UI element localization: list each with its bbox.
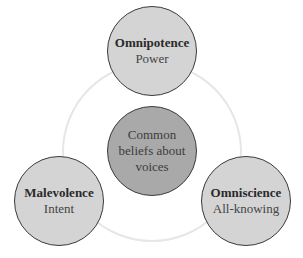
node-title: Omnipotence <box>115 35 189 51</box>
node-title: Malevolence <box>24 185 93 201</box>
node-subtitle: Intent <box>44 201 74 217</box>
node-title: Omniscience <box>211 185 282 201</box>
node-omnipotence: Omnipotence Power <box>107 6 197 96</box>
node-subtitle: All-knowing <box>213 201 279 217</box>
center-line-2: beliefs about <box>113 143 192 159</box>
center-line-1: Common <box>122 127 182 143</box>
center-line-3: voices <box>129 159 174 175</box>
node-subtitle: Power <box>135 51 168 67</box>
node-malevolence: Malevolence Intent <box>14 156 104 246</box>
node-center: Common beliefs about voices <box>107 106 197 196</box>
node-omniscience: Omniscience All-knowing <box>201 156 291 246</box>
